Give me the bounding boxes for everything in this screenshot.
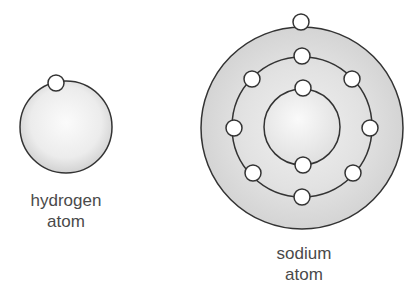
hydrogen-label-line2: atom [6, 211, 126, 232]
sodium-electron-middle [294, 189, 310, 205]
sodium-electron-middle [226, 120, 242, 136]
sodium-electron-middle [294, 48, 310, 64]
sodium-inner-shell [264, 89, 340, 165]
sodium-electron-middle [245, 165, 261, 181]
sodium-label-line2: atom [244, 264, 364, 285]
sodium-electron-middle [344, 71, 360, 87]
hydrogen-label-line1: hydrogen [6, 190, 126, 211]
sodium-atom [201, 14, 403, 229]
sodium-electron-middle [244, 71, 260, 87]
hydrogen-label: hydrogen atom [6, 190, 126, 232]
sodium-label: sodium atom [244, 243, 364, 285]
sodium-electron-inner [295, 80, 311, 96]
sodium-electron-middle [345, 165, 361, 181]
hydrogen-electron [48, 75, 64, 91]
sodium-electron-middle [362, 120, 378, 136]
sodium-label-line1: sodium [244, 243, 364, 264]
sodium-electron-inner [295, 157, 311, 173]
sodium-electron-outer [293, 14, 309, 30]
hydrogen-shell [20, 81, 112, 173]
hydrogen-atom [20, 75, 112, 173]
